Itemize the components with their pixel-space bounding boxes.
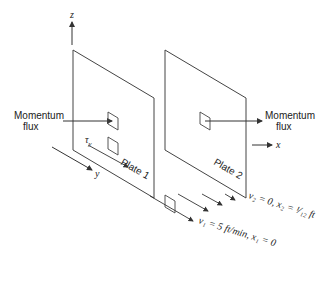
plate-2: Plate 2	[165, 50, 246, 198]
control-surface-2	[108, 137, 118, 155]
z-axis: z	[69, 9, 74, 45]
z-axis-label: z	[69, 9, 74, 20]
momentum-flux-right: Momentum flux	[200, 110, 315, 132]
momentum-flux-right-line1: Momentum	[265, 110, 315, 121]
plate-1: Plate 1	[73, 50, 154, 198]
plate-2-condition: v₂ = 0, x₂ = ¹⁄₁₂ ft	[247, 189, 316, 220]
x-axis: x	[252, 139, 281, 150]
y-axis-label: y	[94, 168, 100, 179]
momentum-flux-left: Momentum flux	[14, 110, 118, 132]
momentum-flux-right-line2: flux	[276, 121, 292, 132]
momentum-transfer-diagram: z Plate 1 Plate 2 Momentum flux τy y Mom…	[0, 0, 331, 287]
momentum-flux-left-line1: Momentum	[14, 110, 64, 121]
diagram-canvas: z Plate 1 Plate 2 Momentum flux τy y Mom…	[0, 0, 331, 287]
velocity-profile	[150, 194, 235, 221]
control-surface-4	[165, 195, 175, 213]
momentum-flux-left-line2: flux	[23, 121, 39, 132]
x-axis-label: x	[275, 139, 281, 150]
plate-1-label: Plate 1	[119, 156, 152, 181]
plate-1-condition: v₁ = 5 ft/min, x₁ = 0	[197, 214, 277, 248]
plate-2-label: Plate 2	[212, 156, 245, 181]
